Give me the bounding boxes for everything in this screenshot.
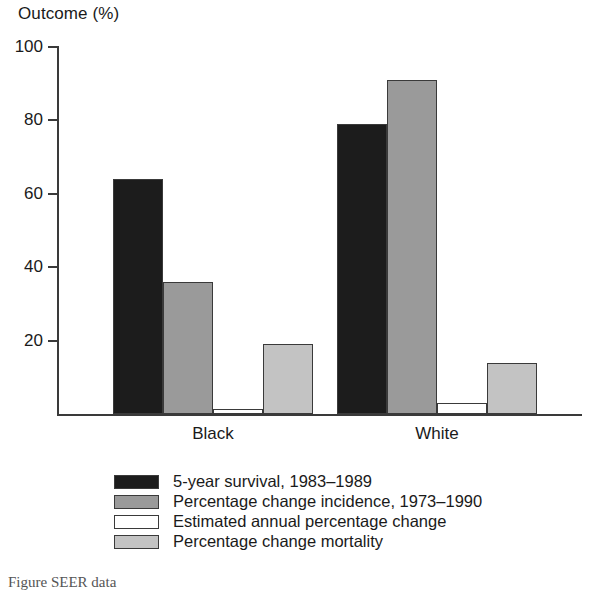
- legend-swatch-icon: [114, 535, 159, 549]
- y-axis-tick-label: 100: [15, 38, 43, 55]
- chart-legend: 5-year survival, 1983–1989Percentage cha…: [114, 472, 482, 552]
- y-axis-tick: [48, 266, 59, 268]
- y-axis-line: [57, 47, 59, 414]
- legend-item: Percentage change incidence, 1973–1990: [114, 492, 482, 511]
- x-axis-category-label-black: Black: [192, 424, 234, 444]
- bar-white-series-4: [487, 363, 537, 414]
- legend-item: 5-year survival, 1983–1989: [114, 472, 482, 491]
- chart-title: Outcome (%): [18, 4, 119, 24]
- y-axis-tick-label: 60: [24, 185, 43, 202]
- legend-label: Estimated annual percentage change: [173, 513, 446, 530]
- figure-caption: Figure SEER data: [8, 574, 608, 591]
- bar-black-series-3: [213, 409, 263, 415]
- figure-bar-chart: Outcome (%) 20406080100 5-year survival,…: [0, 0, 610, 591]
- bar-black-series-2: [163, 282, 213, 414]
- y-axis-tick: [48, 340, 59, 342]
- y-axis-tick: [48, 193, 59, 195]
- x-axis-line: [57, 414, 582, 416]
- legend-item: Percentage change mortality: [114, 532, 482, 551]
- legend-swatch-icon: [114, 515, 159, 529]
- y-axis-tick-labels: 20406080100: [0, 47, 57, 414]
- y-axis-tick: [48, 119, 59, 121]
- bar-black-series-4: [263, 344, 313, 414]
- legend-label: Percentage change mortality: [173, 533, 383, 550]
- legend-label: 5-year survival, 1983–1989: [173, 473, 372, 490]
- x-axis-category-label-white: White: [415, 424, 458, 444]
- bar-black-series-1: [113, 179, 163, 414]
- bar-white-series-3: [437, 403, 487, 414]
- y-axis-tick-label: 40: [24, 258, 43, 275]
- y-axis-tick: [48, 46, 59, 48]
- legend-swatch-icon: [114, 475, 159, 489]
- y-axis-tick-label: 80: [24, 111, 43, 128]
- legend-item: Estimated annual percentage change: [114, 512, 482, 531]
- y-axis-tick-label: 20: [24, 332, 43, 349]
- bar-white-series-2: [387, 80, 437, 414]
- legend-swatch-icon: [114, 495, 159, 509]
- bar-white-series-1: [337, 124, 387, 414]
- plot-area: [57, 47, 589, 414]
- legend-label: Percentage change incidence, 1973–1990: [173, 493, 482, 510]
